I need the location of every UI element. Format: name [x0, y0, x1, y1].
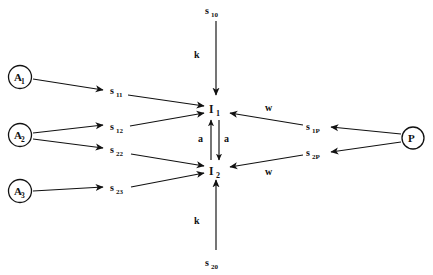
s12-base: s: [110, 121, 114, 132]
s20-base: s: [205, 257, 209, 268]
label-s11: s 11: [110, 85, 123, 99]
reaction-network-diagram: I1 ======== --> s 10 k I2 ======== --> s…: [0, 0, 433, 275]
arrow-s23-to-i2: [131, 173, 204, 187]
label-s22: s 22: [110, 144, 124, 158]
s11-subscript: 11: [116, 91, 123, 99]
s12-subscript: 12: [116, 127, 124, 135]
arrow-p-to-s2p: [331, 142, 401, 152]
arrow-a2-to-s22: [33, 139, 103, 148]
label-s20: s 20: [205, 257, 219, 271]
rate-label-a-right: a: [224, 133, 229, 144]
s2p-base: s: [306, 147, 310, 158]
species-i2-label: I: [209, 165, 214, 177]
node-a3-subscript: 3: [21, 191, 25, 200]
diagram-canvas: I1 ======== --> s 10 k I2 ======== --> s…: [0, 0, 433, 275]
s11-base: s: [110, 85, 114, 96]
arrow-a3-to-s23: [33, 187, 103, 191]
s23-base: s: [110, 182, 114, 193]
s22-base: s: [110, 144, 114, 155]
s1p-subscript: 1P: [312, 127, 321, 135]
arrow-s12-to-i1: [130, 113, 204, 126]
rate-label-a-left: a: [198, 133, 203, 144]
arrow-a1-to-s11: [33, 79, 103, 90]
label-s10: s 10: [205, 5, 219, 19]
label-s23: s 23: [110, 182, 124, 196]
rate-label-k-top: k: [194, 49, 200, 60]
node-a2-subscript: 2: [21, 135, 25, 144]
node-a1-subscript: 1: [21, 77, 25, 86]
species-i2[interactable]: I 2: [209, 165, 220, 180]
species-i1-label: I: [209, 103, 214, 115]
node-p-label: P: [408, 132, 415, 144]
s20-subscript: 20: [211, 263, 219, 271]
species-i1-subscript: 1: [216, 109, 220, 118]
node-a1[interactable]: A 1: [9, 66, 32, 89]
label-s1p: s 1P: [306, 121, 321, 135]
arrow-s1p-to-i1: [230, 113, 303, 125]
arrow-s11-to-i1: [128, 95, 204, 106]
rate-label-w-top: w: [265, 102, 273, 113]
s1p-base: s: [306, 121, 310, 132]
s10-base: s: [205, 5, 209, 16]
arrow-s22-to-i2: [131, 154, 204, 166]
label-s12: s 12: [110, 121, 124, 135]
rate-label-w-bottom: w: [265, 166, 273, 177]
s2p-subscript: 2P: [312, 153, 321, 161]
node-a3[interactable]: A 3: [9, 180, 32, 203]
label-s2p: s 2P: [306, 147, 321, 161]
arrow-a2-to-s12: [33, 125, 103, 133]
s10-subscript: 10: [211, 11, 219, 19]
node-p[interactable]: P: [402, 127, 424, 149]
species-i2-subscript: 2: [216, 171, 220, 180]
rate-label-k-bottom: k: [194, 215, 200, 226]
s23-subscript: 23: [116, 188, 124, 196]
s22-subscript: 22: [116, 150, 124, 158]
arrow-p-to-s1p: [331, 127, 401, 134]
species-i1[interactable]: I 1: [209, 103, 220, 118]
node-a2[interactable]: A 2: [9, 124, 32, 147]
